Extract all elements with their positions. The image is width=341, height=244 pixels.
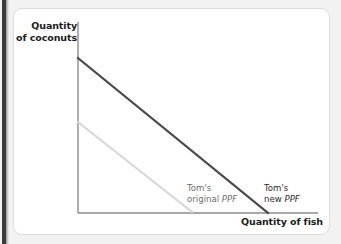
y-axis-label-line2: of coconuts: [16, 32, 77, 44]
y-axis-label-line1: Quantity: [31, 20, 77, 31]
annotation-new-ppf-prefix: new: [264, 194, 285, 204]
annotation-new-ppf-acronym: PPF: [285, 194, 300, 204]
annotation-original-ppf: Tom's original PPF: [187, 183, 237, 204]
series-line-original-ppf: [78, 122, 192, 212]
annotation-new-ppf-line1: Tom's: [264, 183, 288, 193]
x-axis-label: Quantity of fish: [241, 216, 323, 228]
series-line-new-ppf: [78, 58, 268, 213]
annotation-new-ppf: Tom's new PPF: [264, 183, 300, 204]
annotation-original-ppf-acronym: PPF: [222, 194, 237, 204]
y-axis-label: Quantity of coconuts: [16, 20, 77, 43]
annotation-original-ppf-line1: Tom's: [187, 183, 211, 193]
annotation-original-ppf-prefix: original: [187, 194, 222, 204]
